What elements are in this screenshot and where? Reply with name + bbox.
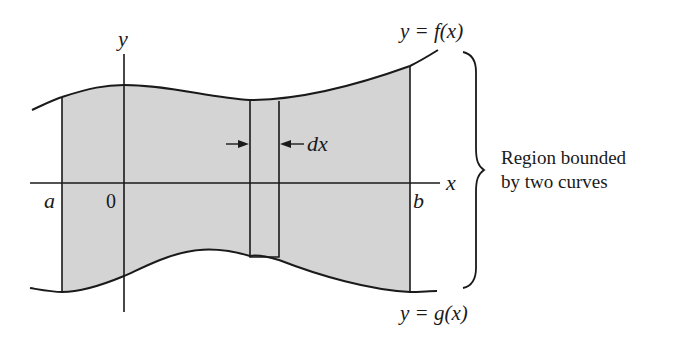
region-between-curves-diagram: y x 0 a b dx y = f(x) y = g(x) Region bo… [0, 0, 686, 341]
right-brace-icon [463, 52, 484, 288]
label-y-axis: y [116, 26, 128, 51]
label-a: a [44, 188, 55, 213]
label-b: b [413, 188, 424, 213]
label-x-axis: x [445, 170, 456, 195]
label-dx: dx [307, 131, 328, 156]
annotation-line-2: by two curves [501, 171, 608, 192]
label-f-curve: y = f(x) [398, 19, 463, 43]
label-g-curve: y = g(x) [398, 301, 468, 325]
label-origin: 0 [106, 190, 116, 212]
annotation-line-1: Region bounded [501, 147, 627, 168]
shaded-region [62, 66, 410, 292]
